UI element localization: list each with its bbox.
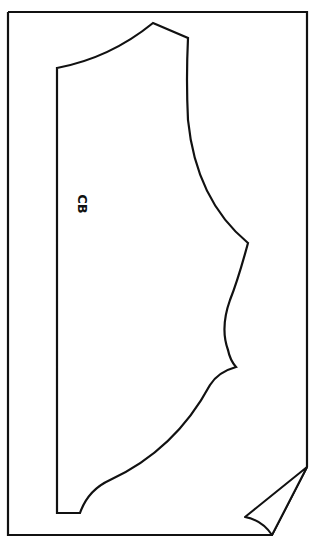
center-back-label: CB xyxy=(72,192,92,216)
pattern-piece-outline xyxy=(57,23,248,513)
paper-outline xyxy=(8,12,307,535)
pattern-svg xyxy=(0,0,315,539)
folded-corner-icon xyxy=(245,467,307,535)
pattern-diagram: CB xyxy=(0,0,315,539)
